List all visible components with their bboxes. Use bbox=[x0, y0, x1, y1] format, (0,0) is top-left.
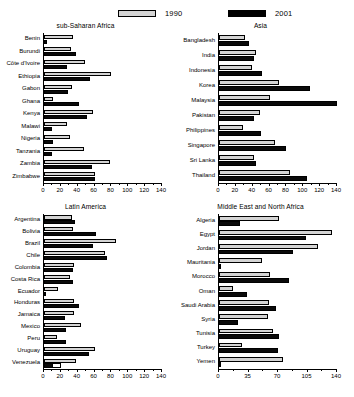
bar-1990 bbox=[44, 251, 105, 255]
x-axis-tick-label: 80 bbox=[282, 187, 289, 193]
bar-1990 bbox=[219, 343, 242, 348]
bar-1990 bbox=[44, 85, 72, 89]
x-axis-minor-tick bbox=[321, 369, 322, 371]
bar-1990 bbox=[219, 50, 256, 55]
panel-sub-saharan-africa: sub-Saharan Africa 020406080100120140 Be… bbox=[2, 22, 169, 194]
x-axis-tick-label: 140 bbox=[156, 187, 166, 193]
bar-2001 bbox=[219, 116, 254, 121]
bar-1990 bbox=[44, 60, 85, 64]
bar-2001 bbox=[219, 236, 306, 241]
category-label: Argentina bbox=[2, 216, 40, 222]
x-axis-minor-tick bbox=[85, 369, 86, 371]
bar-1990 bbox=[44, 335, 57, 339]
plot-area: 020406080100120140 bbox=[43, 214, 161, 369]
bar-1990 bbox=[219, 95, 270, 100]
bar-1990 bbox=[44, 160, 110, 164]
x-axis-tick-label: 20 bbox=[232, 187, 239, 193]
bar-1990 bbox=[219, 244, 318, 249]
x-axis-tick-label: 100 bbox=[297, 187, 307, 193]
x-axis-tick bbox=[77, 183, 78, 186]
category-label: Bangladesh bbox=[177, 37, 215, 43]
x-axis-tick bbox=[252, 183, 253, 186]
x-axis-tick bbox=[307, 369, 308, 372]
x-axis-tick-label: 40 bbox=[73, 187, 80, 193]
panel-title: sub-Saharan Africa bbox=[2, 22, 169, 29]
figure-multi-panel-bar-charts: 1990 2001 sub-Saharan Africa 02040608010… bbox=[0, 0, 354, 397]
bar-2001 bbox=[219, 86, 310, 91]
bar-1990 bbox=[219, 80, 279, 85]
bar-1990 bbox=[44, 263, 74, 267]
bar-1990 bbox=[44, 275, 70, 279]
bar-2001 bbox=[44, 280, 73, 284]
panel-title: Asia bbox=[177, 22, 344, 29]
panel-middle-east-north-africa: Middle East and North Africa 03570105140… bbox=[177, 203, 344, 380]
bar-2001 bbox=[44, 268, 73, 272]
x-axis-tick bbox=[144, 369, 145, 372]
bar-1990 bbox=[44, 311, 74, 315]
x-axis-tick-label: 60 bbox=[90, 187, 97, 193]
bar-2001 bbox=[219, 221, 240, 226]
panel-title: Latin America bbox=[2, 203, 169, 210]
bar-2001 bbox=[219, 41, 249, 46]
category-label: Philippines bbox=[177, 127, 215, 133]
bar-2001 bbox=[219, 161, 256, 166]
bar-2001 bbox=[219, 292, 247, 297]
bar-1990 bbox=[219, 170, 290, 175]
x-axis-tick-label: 105 bbox=[301, 373, 311, 379]
x-axis-tick bbox=[110, 183, 111, 186]
x-axis-tick-label: 0 bbox=[216, 373, 219, 379]
bar-1990 bbox=[44, 239, 116, 243]
bar-2001 bbox=[44, 127, 52, 131]
category-label: India bbox=[177, 52, 215, 58]
category-label: Korea bbox=[177, 82, 215, 88]
legend-swatch-2001 bbox=[228, 10, 266, 17]
x-axis-minor-tick bbox=[51, 183, 52, 185]
category-label: Sri Lanka bbox=[177, 157, 215, 163]
x-axis-tick-label: 60 bbox=[90, 373, 97, 379]
category-label: Thailand bbox=[177, 172, 215, 178]
category-label: Yemen bbox=[177, 358, 215, 364]
x-axis-tick-label: 140 bbox=[156, 373, 166, 379]
bar-1990 bbox=[219, 216, 279, 221]
x-axis-tick bbox=[94, 369, 95, 372]
x-axis-tick bbox=[248, 369, 249, 372]
x-axis-minor-tick bbox=[102, 183, 103, 185]
bar-2001 bbox=[44, 340, 66, 344]
category-label: Costa Rica bbox=[2, 276, 40, 282]
bar-2001 bbox=[219, 101, 337, 106]
category-label: Tanzania bbox=[2, 148, 40, 154]
x-axis-tick-label: 120 bbox=[139, 373, 149, 379]
bar-1990 bbox=[219, 329, 273, 334]
x-axis-minor-tick bbox=[136, 369, 137, 371]
x-axis-minor-tick bbox=[153, 183, 154, 185]
x-axis-minor-tick bbox=[68, 369, 69, 371]
x-axis-minor-tick bbox=[226, 183, 227, 185]
bar-1990 bbox=[219, 272, 270, 277]
bar-1990 bbox=[44, 35, 73, 39]
x-axis-minor-tick bbox=[277, 183, 278, 185]
bar-2001 bbox=[44, 52, 76, 56]
x-axis-minor-tick bbox=[136, 183, 137, 185]
x-axis-tick-label: 100 bbox=[122, 187, 132, 193]
x-axis-minor-tick bbox=[328, 183, 329, 185]
category-label: Morocco bbox=[177, 273, 215, 279]
x-axis-minor-tick bbox=[68, 183, 69, 185]
bar-2001 bbox=[219, 320, 238, 325]
x-axis-tick bbox=[127, 369, 128, 372]
x-axis-minor-tick bbox=[51, 369, 52, 371]
bar-2001 bbox=[219, 146, 286, 151]
x-axis-tick-label: 0 bbox=[216, 187, 219, 193]
x-axis-tick bbox=[94, 183, 95, 186]
x-axis-tick bbox=[60, 369, 61, 372]
category-label: Benin bbox=[2, 35, 40, 41]
x-axis-tick-label: 40 bbox=[73, 373, 80, 379]
category-label: Peru bbox=[2, 335, 40, 341]
x-axis-tick-label: 35 bbox=[244, 373, 251, 379]
bar-1990 bbox=[219, 110, 260, 115]
category-label: Côte d'Ivoire bbox=[2, 60, 40, 66]
x-axis-minor-tick bbox=[119, 369, 120, 371]
bar-1990 bbox=[219, 357, 283, 362]
plot-area: 020406080100120140 bbox=[218, 33, 336, 183]
bar-2001 bbox=[219, 56, 254, 61]
category-label: Nigeria bbox=[2, 135, 40, 141]
